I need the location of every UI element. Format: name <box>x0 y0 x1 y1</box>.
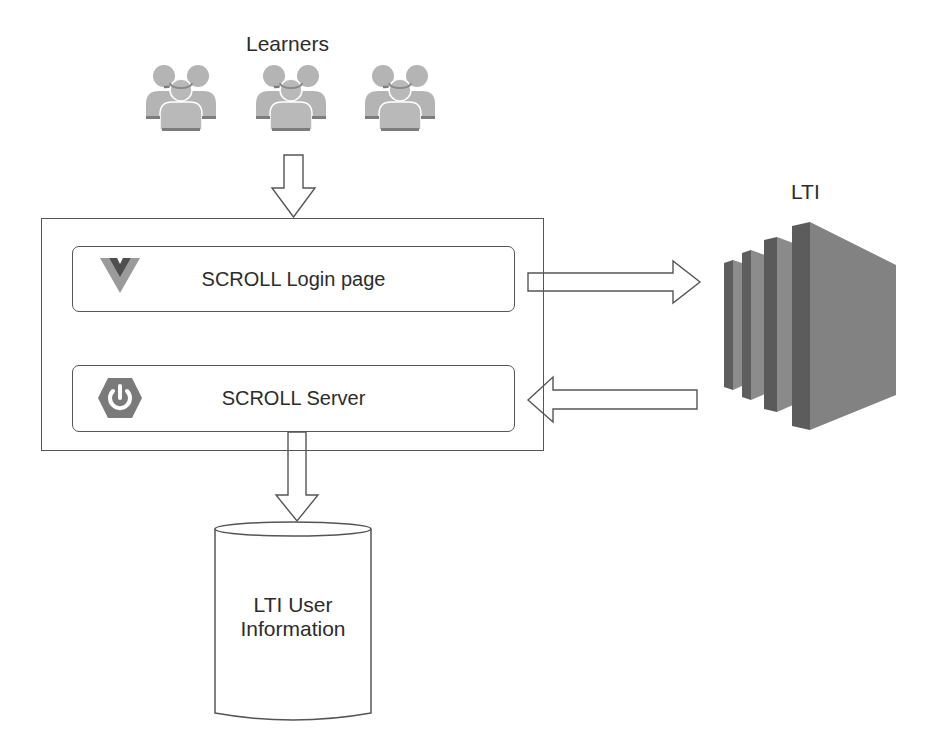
scroll-server-label: SCROLL Server <box>73 388 514 408</box>
db-label-line2: Information <box>215 617 371 641</box>
arrow-left-from-lti <box>528 377 697 422</box>
scroll-server-box: SCROLL Server <box>72 365 515 432</box>
lti-label: LTI <box>791 181 820 202</box>
arrow-right-to-lti <box>528 261 700 303</box>
scroll-login-page-box: SCROLL Login page <box>72 246 515 312</box>
lti-user-information-label: LTI User Information <box>215 593 371 641</box>
lti-stacked-panels-icon <box>724 222 896 430</box>
db-label-line1: LTI User <box>215 593 371 617</box>
scroll-login-page-label: SCROLL Login page <box>73 269 514 289</box>
arrow-down-learners <box>272 155 315 217</box>
